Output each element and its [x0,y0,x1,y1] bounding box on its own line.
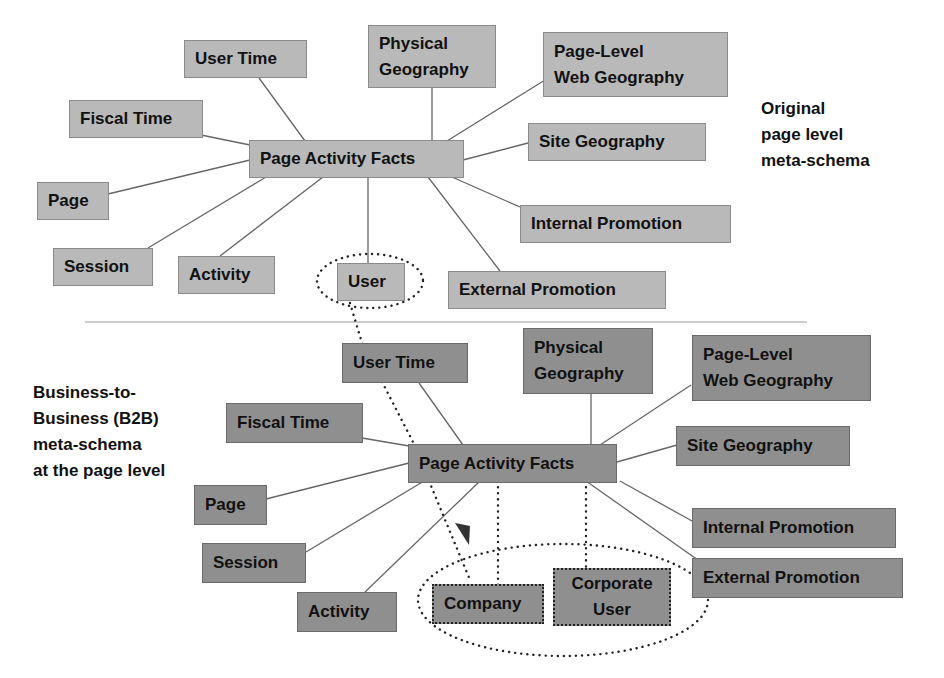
top-caption: Original page level meta-schema [761,96,870,174]
node-label: User [348,269,386,295]
bottom-node-site-geography: Site Geography [676,426,850,466]
bottom-node-internal-promotion: Internal Promotion [692,508,896,548]
top-node-activity: Activity [178,256,275,294]
node-label: Physical Geography [379,31,469,83]
node-label: Page [48,188,89,214]
top-node-user-time: User Time [184,40,307,78]
bottom-node-page: Page [194,485,267,525]
bottom-node-external-promotion: External Promotion [692,558,903,598]
bottom-node-user-time: User Time [342,343,468,383]
bottom-node-page-activity-facts: Page Activity Facts [408,444,617,483]
node-label: Fiscal Time [80,106,172,132]
top-node-site-geography: Site Geography [528,123,706,161]
bottom-node-physical-geography: Physical Geography [523,328,653,394]
node-label: Physical Geography [534,335,624,387]
top-node-fiscal-time: Fiscal Time [69,100,203,138]
bottom-node-page-level-web-geography: Page-Level Web Geography [692,335,871,401]
bottom-node-fiscal-time: Fiscal Time [226,403,363,443]
center-node-label: Page Activity Facts [419,451,574,477]
node-label: Site Geography [687,433,813,459]
bottom-node-company: Company [432,584,544,624]
node-label: User Time [353,350,435,376]
node-label: Session [213,550,278,576]
top-node-user: User [337,263,405,301]
bottom-node-session: Session [202,543,306,583]
node-label: External Promotion [459,277,616,303]
node-label: User Time [195,46,277,72]
node-label: Internal Promotion [531,211,682,237]
node-label: Corporate User [571,571,652,623]
node-label: Activity [308,599,369,625]
node-label: Page-Level Web Geography [554,39,684,91]
node-label: External Promotion [703,565,860,591]
node-label: Activity [189,262,250,288]
top-node-internal-promotion: Internal Promotion [520,205,731,243]
node-label: Page-Level Web Geography [703,342,833,394]
node-label: Page [205,492,246,518]
top-node-page-level-web-geography: Page-Level Web Geography [543,32,728,97]
bottom-node-activity: Activity [297,592,397,632]
bottom-caption: Business-to- Business (B2B) meta-schema … [33,380,165,484]
top-node-page-activity-facts: Page Activity Facts [249,140,464,178]
top-node-physical-geography: Physical Geography [368,25,496,88]
bottom-node-corporate-user: Corporate User [553,568,671,626]
top-node-external-promotion: External Promotion [448,271,666,309]
node-label: Session [64,254,129,280]
node-label: Site Geography [539,129,665,155]
center-node-label: Page Activity Facts [260,146,415,172]
arrowhead-icon [455,523,470,545]
top-node-page: Page [37,182,109,220]
node-label: Internal Promotion [703,515,854,541]
node-label: Company [444,591,521,617]
top-node-session: Session [53,248,153,286]
node-label: Fiscal Time [237,410,329,436]
